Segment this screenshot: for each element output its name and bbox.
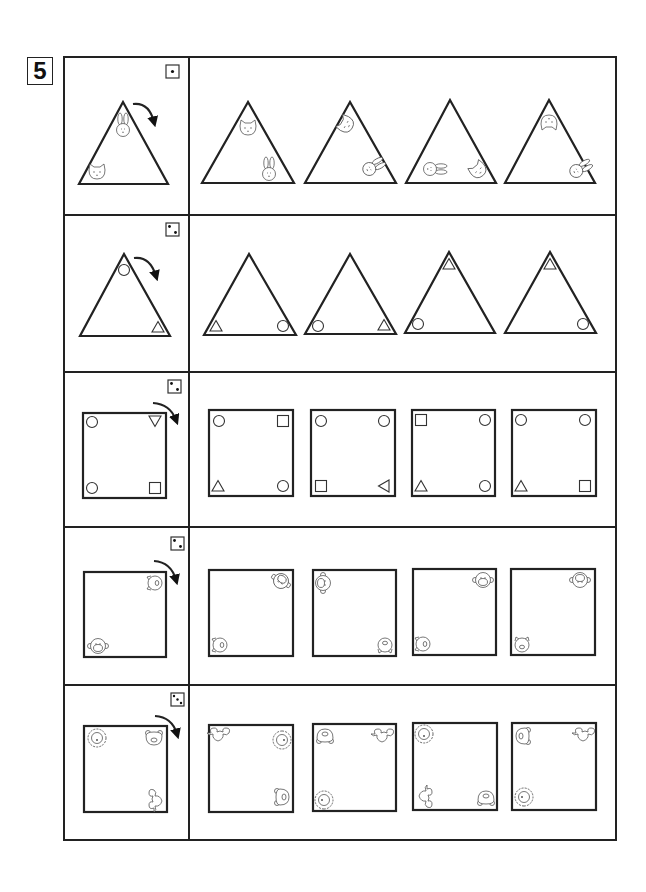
- option-3-2[interactable]: [311, 410, 395, 496]
- clockwise-arrow-icon: [133, 104, 154, 122]
- clockwise-arrow-icon: [153, 403, 176, 420]
- die-3-icon: [171, 693, 184, 706]
- reference-square: [83, 413, 166, 498]
- pig-icon: [147, 576, 162, 590]
- monkey-icon: [88, 639, 109, 654]
- die-1-icon: [166, 65, 179, 78]
- die-2-icon: [168, 380, 181, 393]
- clockwise-arrow-icon: [134, 258, 156, 276]
- bear-icon: [146, 731, 163, 746]
- option-4-1[interactable]: [209, 569, 294, 656]
- option-5-1[interactable]: [207, 725, 293, 812]
- rabbit-icon: [117, 113, 130, 137]
- reference-triangle: [79, 102, 168, 184]
- reference-triangle: [80, 254, 170, 336]
- option-4-3[interactable]: [413, 569, 496, 655]
- option-3-1[interactable]: [209, 410, 293, 496]
- option-4-2[interactable]: [313, 570, 396, 656]
- die-2-icon: [171, 537, 184, 550]
- option-1-3[interactable]: [406, 100, 496, 183]
- option-3-3[interactable]: [412, 410, 495, 496]
- option-5-2[interactable]: [313, 724, 396, 811]
- die-2-icon: [166, 223, 179, 236]
- lion-icon: [88, 729, 106, 747]
- option-4-4[interactable]: [511, 569, 595, 655]
- option-2-4[interactable]: [505, 252, 596, 333]
- row-4: [84, 537, 595, 657]
- option-3-4[interactable]: [512, 410, 596, 496]
- option-1-4[interactable]: [505, 100, 595, 183]
- row-5: [84, 693, 596, 812]
- reference-square: [84, 572, 166, 657]
- cat-icon: [89, 164, 105, 179]
- option-2-2[interactable]: [305, 254, 396, 334]
- option-1-2[interactable]: [305, 102, 396, 183]
- sheep-icon: [149, 789, 162, 812]
- row-1: [79, 65, 595, 184]
- option-5-4[interactable]: [512, 723, 596, 810]
- row-2: [80, 223, 596, 336]
- option-1-1[interactable]: [202, 102, 294, 183]
- option-2-3[interactable]: [405, 252, 495, 333]
- reference-square: [84, 726, 167, 812]
- option-2-1[interactable]: [204, 254, 296, 335]
- puzzle-drawing: [0, 0, 646, 892]
- option-5-3[interactable]: [413, 723, 497, 810]
- row-3: [83, 380, 596, 498]
